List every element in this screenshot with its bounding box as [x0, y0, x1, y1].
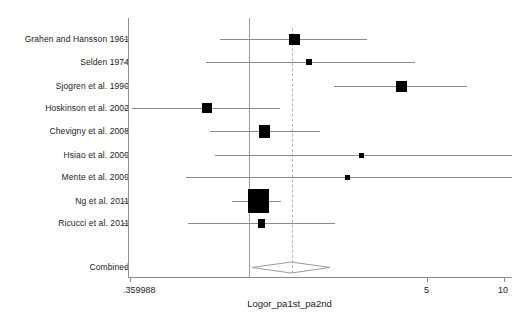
x-axis-tick	[504, 277, 505, 282]
y-axis-tick	[123, 131, 129, 132]
study-label: Hsiao et al. 2009	[64, 150, 130, 160]
x-axis-tick-label: .359988	[123, 285, 156, 295]
effect-size-marker	[396, 81, 407, 92]
study-label: Sjogren et al. 1990	[56, 81, 129, 91]
effect-size-marker	[258, 219, 265, 228]
y-axis-tick	[123, 62, 129, 63]
null-effect-line	[249, 18, 250, 277]
study-label: Ng et al. 2011	[75, 196, 129, 206]
y-axis-tick	[123, 108, 129, 109]
pooled-effect-line	[292, 28, 293, 273]
x-axis-tick	[427, 277, 428, 282]
y-axis-tick	[123, 86, 129, 87]
forest-plot: Grahen and Hansson 1961 Selden 1974 Sjog…	[0, 0, 523, 317]
x-axis-title-text: Logor_pa1st_pa2nd	[247, 298, 332, 309]
study-label: Grahen and Hansson 1961	[25, 34, 129, 44]
effect-size-marker	[202, 103, 212, 113]
x-axis-tick-label: 10	[498, 285, 508, 295]
confidence-interval-line	[215, 155, 512, 156]
effect-size-marker	[289, 34, 300, 45]
combined-diamond-shape	[252, 261, 332, 274]
study-label: Hoskinson et al. 2002	[45, 103, 129, 113]
x-axis-tick-label: 5	[424, 285, 429, 295]
y-axis-line	[128, 18, 129, 277]
x-axis-title: Logor_pa1st_pa2nd	[0, 298, 523, 309]
y-axis-tick	[123, 155, 129, 156]
study-label: Mente et al. 2009	[62, 172, 129, 182]
effect-size-marker	[345, 175, 350, 180]
study-label: Chevigny et al. 2008	[50, 126, 130, 136]
y-axis-tick	[123, 201, 129, 202]
x-axis-tick	[130, 277, 131, 282]
study-label: Selden 1974	[80, 57, 129, 67]
y-axis-tick	[123, 267, 129, 268]
y-axis-tick	[123, 39, 129, 40]
combined-diamond	[252, 261, 332, 274]
y-axis-tick	[123, 177, 129, 178]
effect-size-marker	[248, 189, 269, 213]
x-axis-line	[128, 277, 512, 278]
effect-size-marker	[259, 125, 270, 138]
study-label: Ricucci et al. 2011	[58, 218, 129, 228]
y-axis-tick	[123, 223, 129, 224]
effect-size-marker	[306, 59, 312, 65]
effect-size-marker	[359, 153, 364, 158]
